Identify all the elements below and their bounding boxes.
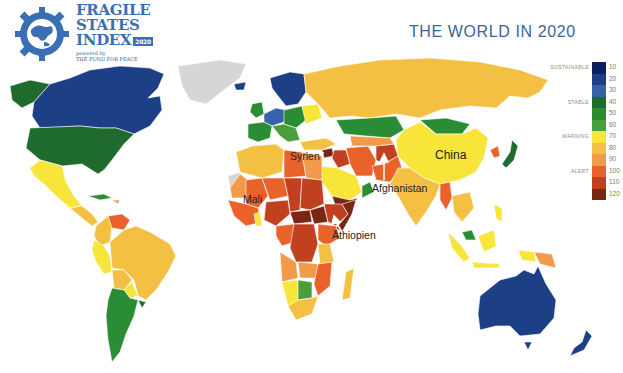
legend-category-alert: ALERT — [571, 168, 589, 174]
region-greenland — [178, 60, 246, 104]
legend-value: 40 — [609, 98, 616, 105]
legend-row-50: 50 — [560, 108, 623, 120]
region-new-guinea-west — [518, 250, 536, 262]
region-philippines — [494, 204, 502, 222]
region-malaysia — [462, 230, 476, 240]
legend-swatch — [592, 74, 606, 86]
legend-row-20: 20 — [560, 74, 623, 86]
region-argentina-chile — [106, 288, 138, 362]
legend-swatch — [592, 85, 606, 97]
legend-value: 30 — [609, 86, 616, 93]
legend-row-90: 90 — [560, 154, 623, 166]
legend-swatch — [592, 97, 606, 109]
legend-row-110: 110 — [560, 177, 623, 189]
legend-row-100: ALERT 100 — [560, 166, 623, 178]
legend-row-30: 30 — [560, 85, 623, 97]
region-nigeria — [264, 200, 290, 226]
region-iceland — [234, 82, 246, 90]
region-central-america — [70, 206, 98, 226]
legend-swatch — [592, 120, 606, 132]
legend-category-warning: WARNING — [562, 133, 589, 139]
legend-row-60: 60 — [560, 120, 623, 132]
region-ecuador-peru — [92, 240, 112, 274]
fragility-legend: SUSTAINABLE 10 20 30 STABLE 40 50 60 WAR… — [560, 62, 623, 200]
region-central-african-rep — [290, 210, 312, 224]
region-kazakhstan — [336, 116, 404, 138]
legend-swatch — [592, 62, 606, 74]
region-cuba — [88, 194, 112, 200]
region-haiti — [112, 200, 120, 204]
label-afghanistan: Afghanistan — [372, 182, 427, 194]
legend-row-40: STABLE 40 — [560, 97, 623, 109]
label-china: China — [435, 148, 466, 162]
region-new-zealand — [570, 330, 592, 356]
region-myanmar — [440, 182, 452, 210]
legend-category-stable: STABLE — [568, 99, 589, 105]
legend-value: 120 — [609, 190, 620, 197]
region-dr-congo — [290, 224, 318, 262]
legend-value: 70 — [609, 132, 616, 139]
legend-swatch — [592, 177, 606, 189]
region-tasmania — [524, 342, 532, 350]
region-southeast-asia — [452, 192, 474, 222]
region-morocco-algeria — [236, 144, 284, 178]
label-ethiopia: Äthiopien — [332, 229, 376, 241]
legend-row-10: SUSTAINABLE 10 — [560, 62, 623, 74]
region-papua-new-guinea — [534, 252, 556, 268]
region-western-europe — [264, 108, 286, 126]
legend-swatch — [592, 189, 606, 201]
legend-swatch — [592, 131, 606, 143]
legend-value: 60 — [609, 121, 616, 128]
region-uruguay — [138, 300, 146, 308]
legend-category-sustainable: SUSTAINABLE — [551, 64, 590, 70]
region-north-korea — [490, 146, 500, 158]
legend-swatch — [592, 154, 606, 166]
legend-value: 50 — [609, 109, 616, 116]
region-russia — [304, 58, 548, 118]
region-sudan — [300, 178, 324, 210]
label-mali: Mali — [243, 193, 262, 205]
legend-value: 110 — [609, 178, 619, 185]
region-zambia — [298, 262, 318, 278]
region-botswana — [298, 280, 312, 300]
region-mexico — [30, 160, 82, 208]
world-map — [0, 0, 623, 373]
region-canada — [32, 66, 164, 134]
legend-swatch — [592, 143, 606, 155]
region-uk-ireland — [250, 102, 264, 118]
legend-value: 20 — [609, 75, 616, 82]
legend-value: 10 — [609, 63, 616, 70]
legend-row-80: 80 — [560, 143, 623, 155]
legend-value: 100 — [609, 167, 620, 174]
region-japan — [502, 140, 518, 168]
legend-swatch — [592, 166, 606, 178]
legend-value: 90 — [609, 155, 616, 162]
legend-row-70: WARNING 70 — [560, 131, 623, 143]
region-iran — [346, 146, 376, 176]
legend-row-120: 120 — [560, 189, 623, 201]
region-france-spain — [248, 122, 272, 142]
region-scandinavia — [270, 72, 306, 106]
legend-swatch — [592, 108, 606, 120]
region-madagascar — [342, 268, 354, 300]
legend-value: 80 — [609, 144, 616, 151]
region-australia — [478, 266, 556, 336]
label-syria: Syrien — [290, 150, 320, 162]
region-tanzania — [318, 244, 334, 264]
region-java — [472, 262, 500, 268]
region-borneo — [478, 230, 496, 252]
